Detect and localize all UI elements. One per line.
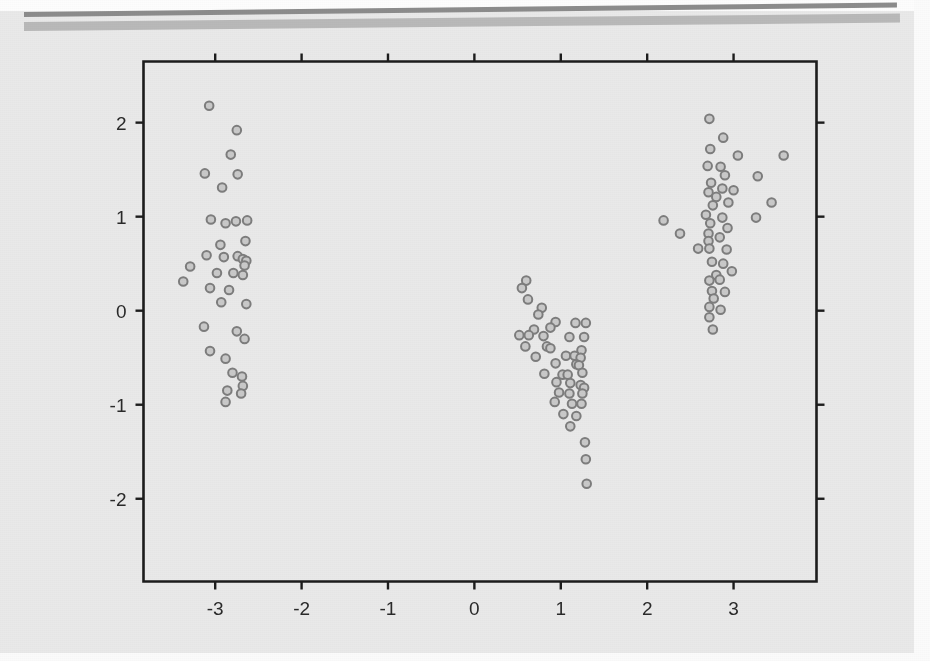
data-point [582, 455, 591, 464]
data-point [566, 379, 575, 388]
data-point [521, 342, 530, 351]
data-point [752, 213, 761, 222]
data-point [237, 389, 246, 398]
scan-page: -3-2-10123 -2-1012 [0, 0, 930, 661]
data-point [572, 412, 581, 421]
data-point [566, 422, 575, 431]
data-point [694, 244, 703, 253]
data-point [721, 288, 730, 297]
data-point [186, 262, 195, 271]
y-tick-label: -1 [110, 395, 127, 416]
data-point [709, 325, 718, 334]
y-tick-label: 2 [116, 113, 127, 134]
data-point [568, 399, 577, 408]
data-point [706, 145, 715, 154]
data-point [709, 201, 718, 210]
data-point [712, 193, 721, 202]
data-point [240, 261, 249, 270]
data-point [707, 179, 716, 188]
data-point [226, 150, 235, 159]
data-point [546, 344, 555, 353]
y-tick-label: 1 [116, 207, 127, 228]
data-point [705, 244, 714, 253]
data-point [213, 269, 222, 278]
y-tick-label: -2 [110, 489, 127, 510]
data-point [206, 284, 215, 293]
x-tick-label: -1 [380, 598, 397, 619]
data-point [551, 359, 560, 368]
data-point [719, 133, 728, 142]
data-point [540, 369, 549, 378]
data-point [716, 305, 725, 314]
data-point [565, 389, 574, 398]
data-point [715, 233, 724, 242]
series-cluster-middle [515, 276, 591, 488]
data-point [239, 271, 248, 280]
data-point [233, 170, 242, 179]
data-point [205, 101, 214, 110]
data-point [555, 388, 564, 397]
data-point [243, 216, 252, 225]
data-point [702, 210, 711, 219]
data-point [546, 323, 555, 332]
data-point [582, 479, 591, 488]
x-tick-label: -2 [293, 598, 310, 619]
data-point [206, 347, 215, 356]
scatter-plot-svg: -3-2-10123 -2-1012 [0, 0, 930, 661]
data-point [221, 398, 230, 407]
data-point [721, 171, 730, 180]
data-point [518, 284, 527, 293]
data-point [709, 294, 718, 303]
plot-frame [144, 62, 817, 582]
data-point [581, 438, 590, 447]
data-point [753, 172, 762, 181]
data-point [705, 313, 714, 322]
data-point [577, 399, 586, 408]
data-point [221, 354, 230, 363]
data-point [559, 410, 568, 419]
x-axis-tick-labels: -3-2-10123 [207, 598, 739, 619]
data-point [229, 269, 238, 278]
data-point [220, 253, 229, 262]
y-axis-tick-labels: -2-1012 [110, 113, 127, 510]
data-point [729, 186, 738, 195]
data-point [779, 151, 788, 160]
data-point [225, 286, 234, 295]
data-point [728, 267, 737, 276]
data-point [223, 386, 232, 395]
data-point [734, 151, 743, 160]
data-point [716, 163, 725, 172]
x-tick-label: 1 [555, 598, 566, 619]
data-point [715, 275, 724, 284]
data-point [718, 184, 727, 193]
data-point [534, 310, 543, 319]
scatter-plot: -3-2-10123 -2-1012 [0, 0, 930, 661]
data-point [233, 126, 242, 135]
data-point [562, 352, 571, 361]
data-point [705, 276, 714, 285]
data-point [524, 295, 533, 304]
data-point [217, 298, 226, 307]
data-point [578, 389, 587, 398]
data-point [238, 372, 247, 381]
data-point [578, 368, 587, 377]
series-cluster-right [659, 115, 788, 334]
data-point [207, 215, 216, 224]
x-tick-label: -3 [207, 598, 224, 619]
x-tick-label: 0 [469, 598, 480, 619]
data-point [531, 352, 540, 361]
data-point [659, 216, 668, 225]
data-point [179, 277, 188, 286]
data-point [582, 319, 591, 328]
data-point [200, 322, 209, 331]
x-tick-label: 2 [642, 598, 653, 619]
data-point [724, 198, 733, 207]
data-point [233, 327, 242, 336]
data-point [221, 219, 230, 228]
data-point [218, 183, 227, 192]
data-point [705, 303, 714, 312]
data-point [539, 332, 548, 341]
data-point [202, 251, 211, 260]
data-point [767, 198, 776, 207]
data-point [723, 224, 732, 233]
